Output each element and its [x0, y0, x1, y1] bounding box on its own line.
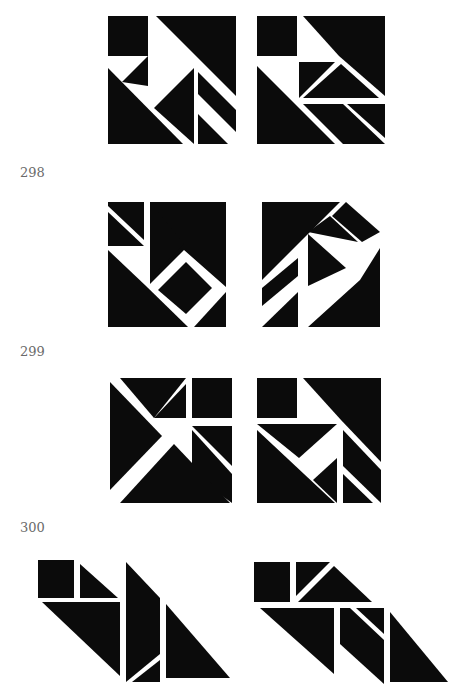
- problem-number: 300: [20, 520, 45, 535]
- problem-number: 299: [20, 344, 45, 359]
- figure-298-right: [262, 202, 380, 327]
- tangram-parallelogram-icon: [254, 560, 448, 684]
- tangram-square-icon: [257, 16, 385, 144]
- tangram-square-icon: [110, 378, 232, 503]
- figure-298-left: [108, 202, 226, 327]
- figure-row1-left: [108, 16, 236, 144]
- figure-300-right: [254, 560, 448, 684]
- figure-299-left: [110, 378, 232, 503]
- tangram-square-icon: [108, 16, 236, 144]
- figure-299-right: [257, 378, 381, 503]
- figure-300-left: [38, 560, 230, 682]
- tangram-square-icon: [257, 378, 381, 503]
- tangram-square-icon: [108, 202, 226, 327]
- figure-row1-right: [257, 16, 385, 144]
- problem-number: 298: [20, 165, 45, 180]
- tangram-parallelogram-icon: [38, 560, 230, 682]
- tangram-square-icon: [262, 202, 380, 327]
